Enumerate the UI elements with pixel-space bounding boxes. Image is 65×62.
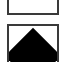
tile-bottom-button[interactable] xyxy=(7,24,59,62)
tile-top-button[interactable] xyxy=(7,0,59,15)
icon-tile-stack xyxy=(0,0,65,62)
diamond-icon xyxy=(7,28,59,62)
